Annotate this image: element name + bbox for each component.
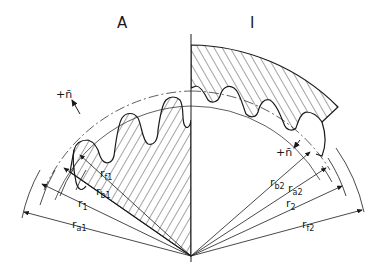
svg-text:r1: r1 <box>78 197 88 212</box>
panel-label-external: A <box>117 14 128 32</box>
svg-text:r2: r2 <box>286 197 296 212</box>
svg-text:rb2: rb2 <box>270 176 285 191</box>
normal-arrow-left <box>72 100 80 114</box>
gear-diagram: A I <box>0 0 383 266</box>
external-gear <box>70 97 191 256</box>
normal-label-right: +n̄ <box>276 146 292 159</box>
right-radius-labels: rb2 ra2 r2 rf2 <box>270 176 314 233</box>
panel-label-internal: I <box>250 14 254 32</box>
right-dimension-arcs <box>322 148 364 212</box>
internal-gear <box>191 45 338 156</box>
right-radius-lines <box>191 152 362 256</box>
svg-text:rf2: rf2 <box>302 218 314 233</box>
normal-label-left: +n̄ <box>56 88 72 101</box>
normal-arrow-right <box>294 140 300 148</box>
svg-text:ra1: ra1 <box>72 218 87 233</box>
